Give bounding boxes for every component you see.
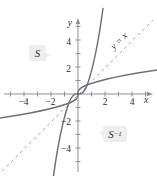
svg-text:y = x: y = x	[108, 30, 130, 52]
label-callout-s-inverse-exponent: −1	[114, 131, 122, 138]
y-tick-label-4: 4	[66, 37, 71, 47]
y-axis-arrowhead	[76, 18, 81, 24]
x-tick-label-neg4: −4	[18, 97, 28, 107]
callout-tail-icon	[99, 130, 104, 136]
label-callout-s-inverse: S−1	[103, 126, 127, 142]
x-axis-label: x	[143, 95, 149, 105]
y-tick-label-neg2: −2	[61, 117, 71, 127]
identity-line-label: y = x	[108, 30, 130, 52]
x-tick-label-neg2: −2	[45, 97, 55, 107]
x-tick-label-2: 2	[103, 97, 108, 107]
x-tick-label-4: 4	[130, 97, 135, 107]
y-axis-label: y	[67, 18, 73, 28]
coordinate-plot: −4 −2 2 4 4 2 −2 −4 y x y = x	[0, 0, 157, 176]
y-tick-label-neg4: −4	[61, 144, 71, 154]
y-tick-label-2: 2	[66, 64, 71, 74]
label-callout-s-text: S	[35, 48, 41, 59]
callout-tail-icon	[45, 52, 50, 58]
graph-figure: −4 −2 2 4 4 2 −2 −4 y x y = x S S−1	[0, 0, 157, 176]
axis-name-labels: y x	[67, 18, 149, 105]
label-callout-s: S	[29, 45, 46, 61]
